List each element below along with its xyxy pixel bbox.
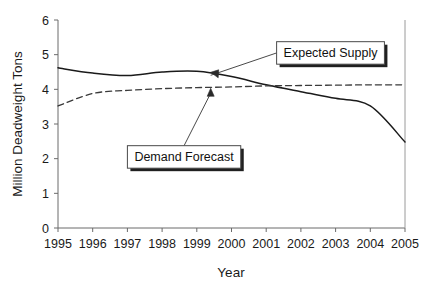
x-tick-label: 1997 — [113, 237, 141, 251]
x-tick-label: 2003 — [322, 237, 350, 251]
x-tick-label: 2002 — [287, 237, 315, 251]
y-tick-label: 3 — [42, 118, 49, 132]
y-tick-label: 5 — [42, 48, 49, 62]
x-tick-label: 2000 — [218, 237, 246, 251]
y-tick-label: 4 — [42, 83, 49, 97]
chart-figure: 1995199619971998199920002001200220032004… — [0, 0, 434, 286]
x-axis-tick-labels: 1995199619971998199920002001200220032004… — [44, 237, 419, 251]
supply-demand-line-chart: 1995199619971998199920002001200220032004… — [0, 0, 434, 286]
annotation-label: Expected Supply — [284, 46, 379, 60]
y-tick-label: 2 — [42, 152, 49, 166]
x-tick-label: 1999 — [183, 237, 211, 251]
x-tick-label: 2005 — [391, 237, 419, 251]
annotation-label: Demand Forecast — [134, 150, 234, 164]
x-axis-title: Year — [217, 265, 245, 280]
y-tick-label: 6 — [42, 14, 49, 28]
y-tick-label: 0 — [42, 222, 49, 236]
y-tick-label: 1 — [42, 187, 49, 201]
x-tick-label: 2001 — [252, 237, 280, 251]
x-tick-label: 1996 — [79, 237, 107, 251]
x-tick-label: 2004 — [356, 237, 384, 251]
y-axis-title: Million Deadweight Tons — [10, 51, 25, 197]
x-tick-label: 1998 — [148, 237, 176, 251]
x-tick-label: 1995 — [44, 237, 72, 251]
